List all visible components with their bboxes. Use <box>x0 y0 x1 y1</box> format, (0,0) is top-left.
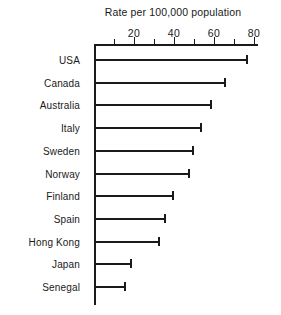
x-axis-tick-major <box>214 37 215 44</box>
bar <box>94 286 126 288</box>
category-label: Sweden <box>43 145 88 156</box>
bar <box>94 59 248 61</box>
bar-end-cap <box>164 214 166 223</box>
bar-end-cap <box>192 146 194 155</box>
x-axis-tick-minor <box>234 39 235 44</box>
bar-end-cap <box>130 259 132 268</box>
category-label: Australia <box>40 100 88 111</box>
x-axis-tick-major <box>254 37 255 44</box>
bar-end-cap <box>172 191 174 200</box>
category-label: Italy <box>61 123 88 134</box>
bar <box>94 173 190 175</box>
bar-end-cap <box>246 55 248 64</box>
bar <box>94 127 202 129</box>
bar-end-cap <box>124 282 126 291</box>
x-axis-tick-minor <box>194 39 195 44</box>
x-axis-tick-major <box>134 37 135 44</box>
bar-end-cap <box>210 100 212 109</box>
bar-end-cap <box>188 169 190 178</box>
bar <box>94 241 160 243</box>
category-label: Hong Kong <box>29 236 88 247</box>
bar-end-cap <box>224 78 226 87</box>
bar-end-cap <box>158 237 160 246</box>
x-axis-tick-major <box>174 37 175 44</box>
chart-title: Rate per 100,000 population <box>88 6 258 18</box>
category-label: Canada <box>44 77 88 88</box>
bar-end-cap <box>200 123 202 132</box>
category-label: Norway <box>45 168 88 179</box>
bar <box>94 104 212 106</box>
bar <box>94 82 226 84</box>
category-label: Senegal <box>42 282 88 293</box>
category-labels: USACanadaAustraliaItalySwedenNorwayFinla… <box>0 0 88 315</box>
x-axis-tick-minor <box>114 39 115 44</box>
bar <box>94 150 194 152</box>
bar <box>94 263 132 265</box>
bar-chart: Rate per 100,000 population 20406080 USA… <box>0 0 281 315</box>
category-label: Japan <box>52 259 88 270</box>
x-axis-line <box>94 44 258 46</box>
category-label: USA <box>59 55 88 66</box>
x-axis-tick-minor <box>154 39 155 44</box>
category-label: Finland <box>46 191 88 202</box>
bar <box>94 195 174 197</box>
bar <box>94 218 166 220</box>
category-label: Spain <box>54 213 88 224</box>
